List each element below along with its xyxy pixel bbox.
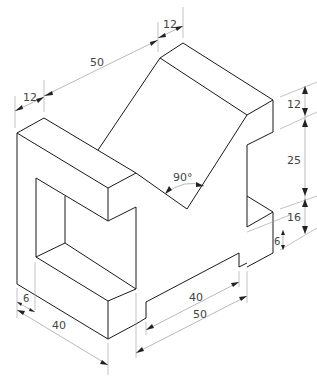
right-face-profile [247,100,273,267]
isometric-drawing: 12 50 12 12 25 16 6 90° 6 40 40 50 [0,0,317,383]
right-top-face [160,43,273,115]
bottom-step-profile [136,253,247,324]
window-top-edge [36,178,108,221]
label-right-6: 6 [274,236,280,247]
label-bottom-50: 50 [193,308,207,321]
label-right-12: 12 [287,98,301,111]
window-inner-bottom-edge [65,243,136,289]
v-groove [136,115,247,209]
left-block-notch [108,207,136,289]
dim-bottom-outer-50 [136,296,247,353]
label-right-25: 25 [287,154,301,167]
left-block-bottom-top-edge [108,289,136,301]
window-inner-bottom-left [36,243,65,257]
object-geometry [17,43,273,339]
label-angle-90: 90° [173,171,193,184]
left-block-top-face [17,118,136,188]
dim-bottom-inner-40 [146,282,239,330]
label-top-50: 50 [90,56,104,69]
label-top-left-12: 12 [23,91,37,104]
window-outer-left-bottom [36,178,108,301]
label-bottom-left-6: 6 [23,293,29,304]
dimension-labels: 12 50 12 12 25 16 6 90° 6 40 40 50 [23,18,301,332]
label-bottom-40: 40 [189,291,203,304]
label-right-16: 16 [287,211,301,224]
dimension-lines [15,26,308,365]
right-notch-top [247,196,273,212]
slope-left-edge [98,58,160,150]
label-bottom-left-40: 40 [52,319,66,332]
label-top-right-12: 12 [163,18,177,31]
